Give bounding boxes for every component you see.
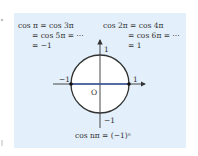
caption: cos nπ = (−1)ⁿ bbox=[75, 132, 131, 140]
label-bottom: −1 bbox=[104, 116, 115, 125]
label-top: 1 bbox=[104, 45, 109, 54]
label-origin: O bbox=[91, 88, 97, 97]
point-one bbox=[127, 82, 131, 86]
label-left: −1 bbox=[59, 75, 70, 84]
label-right: 1 bbox=[133, 75, 138, 84]
